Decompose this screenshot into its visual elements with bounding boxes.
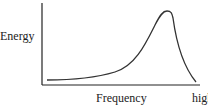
chart-plot-area (0, 0, 208, 105)
x-axis-end-label: high (192, 92, 208, 104)
y-axis-label: Energy (0, 30, 34, 42)
energy-frequency-chart: Energy Frequency high (0, 0, 208, 105)
energy-curve (47, 11, 196, 82)
x-axis-label: Frequency (96, 92, 147, 104)
